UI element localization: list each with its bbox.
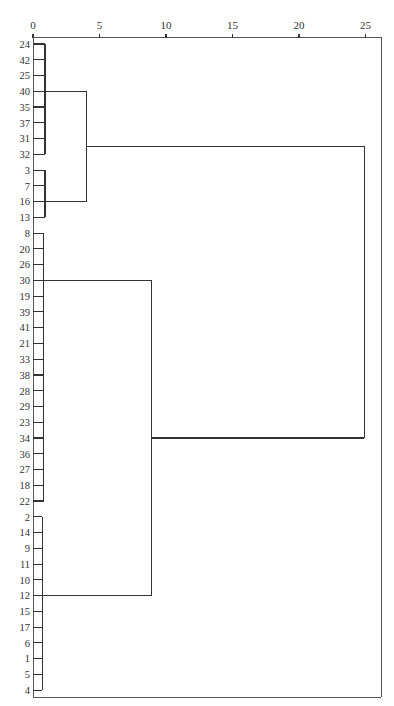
leaf-label: 42 xyxy=(20,55,31,66)
axis-tick-label: 25 xyxy=(360,19,372,31)
leaf-label: 8 xyxy=(25,228,30,239)
leaf-label: 11 xyxy=(20,559,30,570)
leaf-label: 25 xyxy=(20,70,31,81)
leaf-label: 17 xyxy=(20,622,31,633)
axis-tick-label: 10 xyxy=(161,19,173,31)
axis-tick-label: 20 xyxy=(294,19,306,31)
leaf-label: 36 xyxy=(20,449,31,460)
leaf-label: 26 xyxy=(20,259,31,270)
chart-frame xyxy=(33,37,381,697)
leaf-label: 19 xyxy=(20,291,31,302)
leaf-label: 23 xyxy=(20,417,31,428)
leaf-label: 2 xyxy=(25,512,30,523)
leaf-label: 20 xyxy=(20,244,31,255)
leaf-label: 18 xyxy=(20,480,31,491)
distance-axis: 0510152025 xyxy=(30,19,381,38)
axis-tick-label: 15 xyxy=(227,19,239,31)
leaf-label: 35 xyxy=(20,102,31,113)
leaf-label: 40 xyxy=(20,86,31,97)
axis-tick-label: 0 xyxy=(30,19,36,31)
leaf-label: 38 xyxy=(20,370,31,381)
leaf-label: 21 xyxy=(20,338,31,349)
leaf-label: 24 xyxy=(20,39,31,50)
leaf-label: 31 xyxy=(20,133,31,144)
leaf-label: 39 xyxy=(20,307,31,318)
leaf-label: 37 xyxy=(20,118,31,129)
leaf-label: 5 xyxy=(25,669,30,680)
leaf-label: 6 xyxy=(25,638,30,649)
leaf-label: 3 xyxy=(25,165,30,176)
leaf-label: 29 xyxy=(20,401,31,412)
leaf-label: 32 xyxy=(20,149,31,160)
leaf-label: 34 xyxy=(20,433,31,444)
leaf-label: 7 xyxy=(25,181,30,192)
leaf-label: 12 xyxy=(20,590,31,601)
leaf-label: 22 xyxy=(20,496,31,507)
leaf-label: 15 xyxy=(20,606,31,617)
leaf-label: 9 xyxy=(25,543,30,554)
leaf-label: 14 xyxy=(20,527,31,538)
leaf-label: 10 xyxy=(20,575,31,586)
leaf-label: 27 xyxy=(20,464,31,475)
dendrogram-chart: 0510152025 24422540353731323716138202630… xyxy=(0,0,394,706)
leaf-label: 28 xyxy=(20,386,31,397)
axis-tick-label: 5 xyxy=(97,19,103,31)
dendrogram-links xyxy=(33,44,364,690)
leaf-label: 33 xyxy=(20,354,31,365)
leaf-label: 4 xyxy=(25,685,31,696)
leaf-label: 13 xyxy=(20,212,31,223)
leaf-label: 16 xyxy=(20,196,31,207)
leaf-label: 30 xyxy=(20,275,31,286)
leaf-label: 41 xyxy=(20,322,31,333)
leaf-labels: 2442254035373132371613820263019394121333… xyxy=(20,39,31,696)
leaf-label: 1 xyxy=(25,653,30,664)
